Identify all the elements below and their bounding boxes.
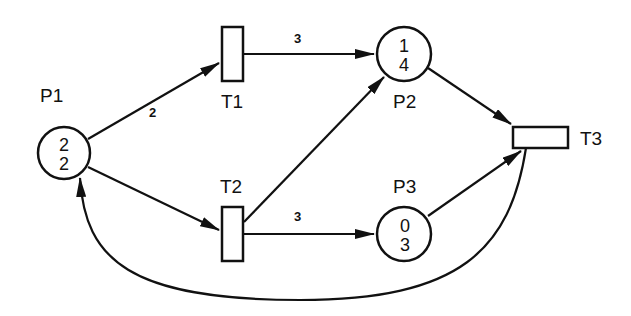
arc-p1-t1	[88, 63, 219, 139]
place-label: P2	[393, 91, 416, 112]
place-token-bottom: 2	[59, 154, 69, 174]
arc-weight-p1-t1: 2	[149, 105, 156, 120]
place-label: P3	[393, 176, 416, 197]
arc-t2-p2	[244, 77, 384, 222]
arc-p3-t3	[428, 151, 521, 216]
transition-t1: T1	[221, 27, 243, 112]
place-p2: P2 1 4	[377, 27, 431, 112]
transition-label: T2	[220, 176, 242, 197]
arcs	[80, 54, 526, 300]
place-label: P1	[40, 85, 63, 106]
arc-p1-t2	[88, 167, 219, 230]
arc-t3-p1	[80, 148, 526, 300]
place-token-top: 0	[400, 216, 410, 236]
place-token-bottom: 3	[400, 235, 410, 255]
arc-weight-t1-p2: 3	[294, 31, 301, 46]
arc-p2-t3	[428, 68, 511, 124]
place-p1: P1 2 2	[38, 85, 90, 179]
transition-label: T3	[580, 128, 602, 149]
place-token-top: 1	[399, 36, 409, 56]
arc-weight-t2-p3: 3	[294, 209, 301, 224]
place-token-top: 2	[59, 135, 69, 155]
place-p3: P3 0 3	[377, 176, 431, 261]
petri-net-diagram: 2 3 3 P1 2 2 P2 1 4 P3 0 3 T1 T2 T3	[0, 0, 631, 316]
transition-t2: T2	[220, 176, 243, 261]
transition-label: T1	[221, 91, 243, 112]
place-token-bottom: 4	[399, 55, 409, 75]
transition-t3: T3	[513, 127, 602, 149]
